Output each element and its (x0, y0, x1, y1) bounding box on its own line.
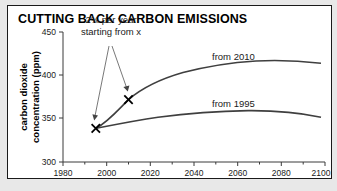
arrowhead-2010 (123, 86, 129, 92)
y-axis-title-line2: concentration (ppm) (30, 51, 41, 143)
x-tick-label-2080: 2080 (272, 168, 291, 178)
marker-start-2010 (124, 95, 132, 103)
x-tick-label-1980: 1980 (54, 168, 73, 178)
x-tick-label-2060: 2060 (228, 168, 247, 178)
arrowhead-1995 (92, 114, 98, 120)
y-tick-label-450: 450 (42, 27, 56, 37)
curve-from-2010 (96, 61, 321, 129)
y-tick-label-300: 300 (42, 157, 56, 167)
x-axis-title: years (192, 179, 217, 180)
annotation-leader-to-2010 (112, 46, 129, 92)
curve-from-1995 (96, 111, 321, 129)
annotation-leader-to-1995 (92, 46, 109, 121)
annotation-line-1: 2% per year (85, 14, 136, 25)
x-tick-label-2100: 2100 (312, 168, 331, 178)
x-tick-label-2000: 2000 (97, 168, 116, 178)
x-tick-label-2040: 2040 (185, 168, 204, 178)
x-tick-label-2020: 2020 (141, 168, 160, 178)
chart-figure: CUTTING BACK CARBON EMISSIONS 450 400 35… (7, 5, 332, 179)
annotation-line-2: starting from x (81, 26, 141, 37)
y-axis-title-line1: carbon dioxide (18, 63, 29, 131)
curve-label-from-2010: from 2010 (212, 51, 255, 62)
y-tick-label-400: 400 (42, 70, 56, 80)
curve-label-from-1995: from 1995 (212, 98, 255, 109)
chart-plot-area: 450 400 350 300 1980 2000 2020 2040 2060… (8, 6, 333, 180)
y-tick-label-350: 350 (42, 113, 56, 123)
